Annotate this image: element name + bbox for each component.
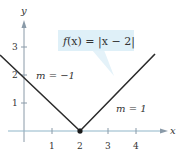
callout-pointer [92, 50, 114, 76]
tick-label-x2: 2 [77, 141, 83, 151]
tick-label-x1: 1 [49, 141, 55, 151]
tick-label-x4: 4 [133, 141, 139, 151]
function-label: f(x) = |x − 2| [62, 35, 135, 49]
tick-label-y2: 2 [12, 70, 18, 80]
slope-right-label: m = 1 [116, 103, 147, 114]
x-axis-label: x [170, 125, 176, 136]
y-axis-arrow-icon [22, 20, 27, 28]
function-line [0, 54, 155, 131]
tick-label-y1: 1 [12, 98, 18, 108]
x-axis-arrow-icon [160, 129, 168, 134]
graph-canvas: y x 1 2 3 4 1 2 3 f(x) = |x − 2| m = −1 … [0, 0, 184, 159]
vertex-point [77, 128, 82, 133]
graph-figure: y x 1 2 3 4 1 2 3 f(x) = |x − 2| m = −1 … [0, 0, 184, 159]
slope-left-label: m = −1 [36, 70, 75, 81]
tick-label-y3: 3 [12, 42, 18, 52]
y-axis-label: y [20, 5, 27, 16]
tick-label-x3: 3 [105, 141, 111, 151]
